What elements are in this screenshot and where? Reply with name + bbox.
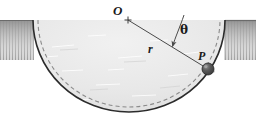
ground-right-block [224, 20, 256, 60]
bowl-interior [33, 20, 225, 112]
label-center-O: O [113, 4, 122, 17]
label-particle-P: P [198, 50, 205, 62]
label-radius-r: r [148, 43, 153, 55]
label-angle-theta: θ [180, 24, 188, 36]
ground-left-block [0, 20, 34, 60]
bottom-margin [0, 118, 256, 127]
physics-diagram-figure: O r P θ [0, 0, 256, 127]
diagram-canvas [0, 0, 256, 127]
